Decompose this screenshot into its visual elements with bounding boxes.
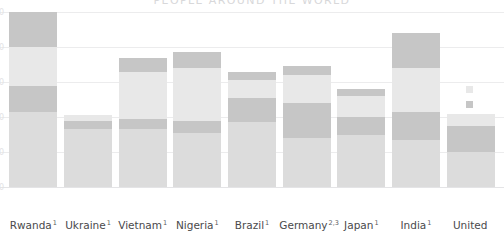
x-axis: Rwanda1 Ukraine1 Vietnam1 Nigeria1 Brazi… xyxy=(0,215,504,238)
x-axis-label-text: India xyxy=(401,219,427,231)
bar-segment-segment-middle-dark xyxy=(9,86,57,112)
bar-segment-segment-bottom xyxy=(119,129,167,187)
bars-layer xyxy=(0,0,504,215)
bar-segment-segment-middle-dark xyxy=(173,121,221,133)
legend-item xyxy=(466,84,500,95)
bar-segment-segment-bottom xyxy=(337,135,385,188)
bar-segment-segment-top-dark xyxy=(119,58,167,72)
bar-segment-segment-middle-dark xyxy=(228,98,276,123)
x-axis-label-united: United xyxy=(443,219,498,232)
legend-item xyxy=(466,99,500,110)
bar-segment-segment-middle-dark xyxy=(337,117,385,135)
x-axis-label-rwanda: Rwanda1 xyxy=(6,219,61,232)
bar-nigeria[interactable] xyxy=(173,52,221,187)
bar-segment-segment-top-dark xyxy=(173,52,221,68)
bar-segment-segment-middle-dark xyxy=(119,119,167,130)
bar-segment-segment-top-dark xyxy=(283,66,331,75)
bar-segment-segment-bottom xyxy=(64,129,112,187)
x-axis-label-germany: Germany2,3 xyxy=(279,219,334,232)
x-axis-label-japan: Japan1 xyxy=(334,219,389,232)
chart-container: PEOPLE AROUND THE WORLD 100 80 60 40 20 … xyxy=(0,0,504,238)
bar-segment-segment-middle-dark xyxy=(283,103,331,138)
bar-germany[interactable] xyxy=(283,66,331,187)
footnote-marker: 1 xyxy=(53,219,57,227)
bar-ukraine[interactable] xyxy=(64,115,112,187)
bar-segment-segment-middle-dark xyxy=(64,121,112,130)
bar-segment-segment-middle-dark xyxy=(447,126,495,152)
bar-segment-segment-top-dark xyxy=(9,12,57,47)
x-axis-label-text: Nigeria xyxy=(176,219,214,231)
x-axis-label-nigeria: Nigeria1 xyxy=(170,219,225,232)
bar-segment-segment-upper-light xyxy=(447,114,495,126)
x-axis-label-text: Ukraine xyxy=(65,219,106,231)
bar-segment-segment-upper-light xyxy=(9,47,57,86)
footnote-marker: 1 xyxy=(215,219,219,227)
bar-segment-segment-bottom xyxy=(228,122,276,187)
bar-segment-segment-upper-light xyxy=(392,68,440,112)
bar-segment-segment-bottom xyxy=(447,152,495,187)
chart-legend xyxy=(466,84,500,114)
bar-segment-segment-upper-light xyxy=(64,115,112,120)
legend-swatch-icon xyxy=(466,101,473,108)
bar-segment-segment-top-dark xyxy=(392,33,440,68)
footnote-marker: 1 xyxy=(163,219,167,227)
x-axis-label-india: India1 xyxy=(389,219,444,232)
footnote-marker: 1 xyxy=(107,219,111,227)
plot-area: 100 80 60 40 20 0 xyxy=(0,0,504,215)
bar-segment-segment-upper-light xyxy=(283,75,331,103)
bar-segment-segment-bottom xyxy=(9,112,57,187)
bar-rwanda[interactable] xyxy=(9,12,57,187)
bar-vietnam[interactable] xyxy=(119,58,167,188)
x-axis-label-text: Vietnam xyxy=(118,219,162,231)
bar-united[interactable] xyxy=(447,114,495,188)
footnote-marker: 1 xyxy=(374,219,378,227)
footnote-marker: 1 xyxy=(427,219,431,227)
bar-segment-segment-top-dark xyxy=(228,72,276,81)
x-axis-label-brazil: Brazil1 xyxy=(225,219,280,232)
x-axis-label-ukraine: Ukraine1 xyxy=(61,219,116,232)
bar-segment-segment-middle-dark xyxy=(392,112,440,140)
bar-india[interactable] xyxy=(392,33,440,187)
bar-segment-segment-upper-light xyxy=(119,72,167,119)
bar-segment-segment-bottom xyxy=(283,138,331,187)
x-axis-label-text: United xyxy=(453,219,488,231)
bar-segment-segment-upper-light xyxy=(228,80,276,98)
bar-segment-segment-upper-light xyxy=(173,68,221,121)
bar-segment-segment-bottom xyxy=(173,133,221,187)
x-axis-label-text: Japan xyxy=(344,219,373,231)
x-axis-label-text: Rwanda xyxy=(10,219,52,231)
bar-japan[interactable] xyxy=(337,89,385,187)
x-axis-label-text: Germany xyxy=(279,219,327,231)
bar-brazil[interactable] xyxy=(228,72,276,188)
x-axis-label-vietnam: Vietnam1 xyxy=(115,219,170,232)
footnote-marker: 1 xyxy=(265,219,269,227)
bar-segment-segment-top-dark xyxy=(337,89,385,96)
bar-segment-segment-bottom xyxy=(392,140,440,187)
legend-swatch-icon xyxy=(466,86,473,93)
x-axis-label-text: Brazil xyxy=(235,219,264,231)
bar-segment-segment-upper-light xyxy=(337,96,385,117)
